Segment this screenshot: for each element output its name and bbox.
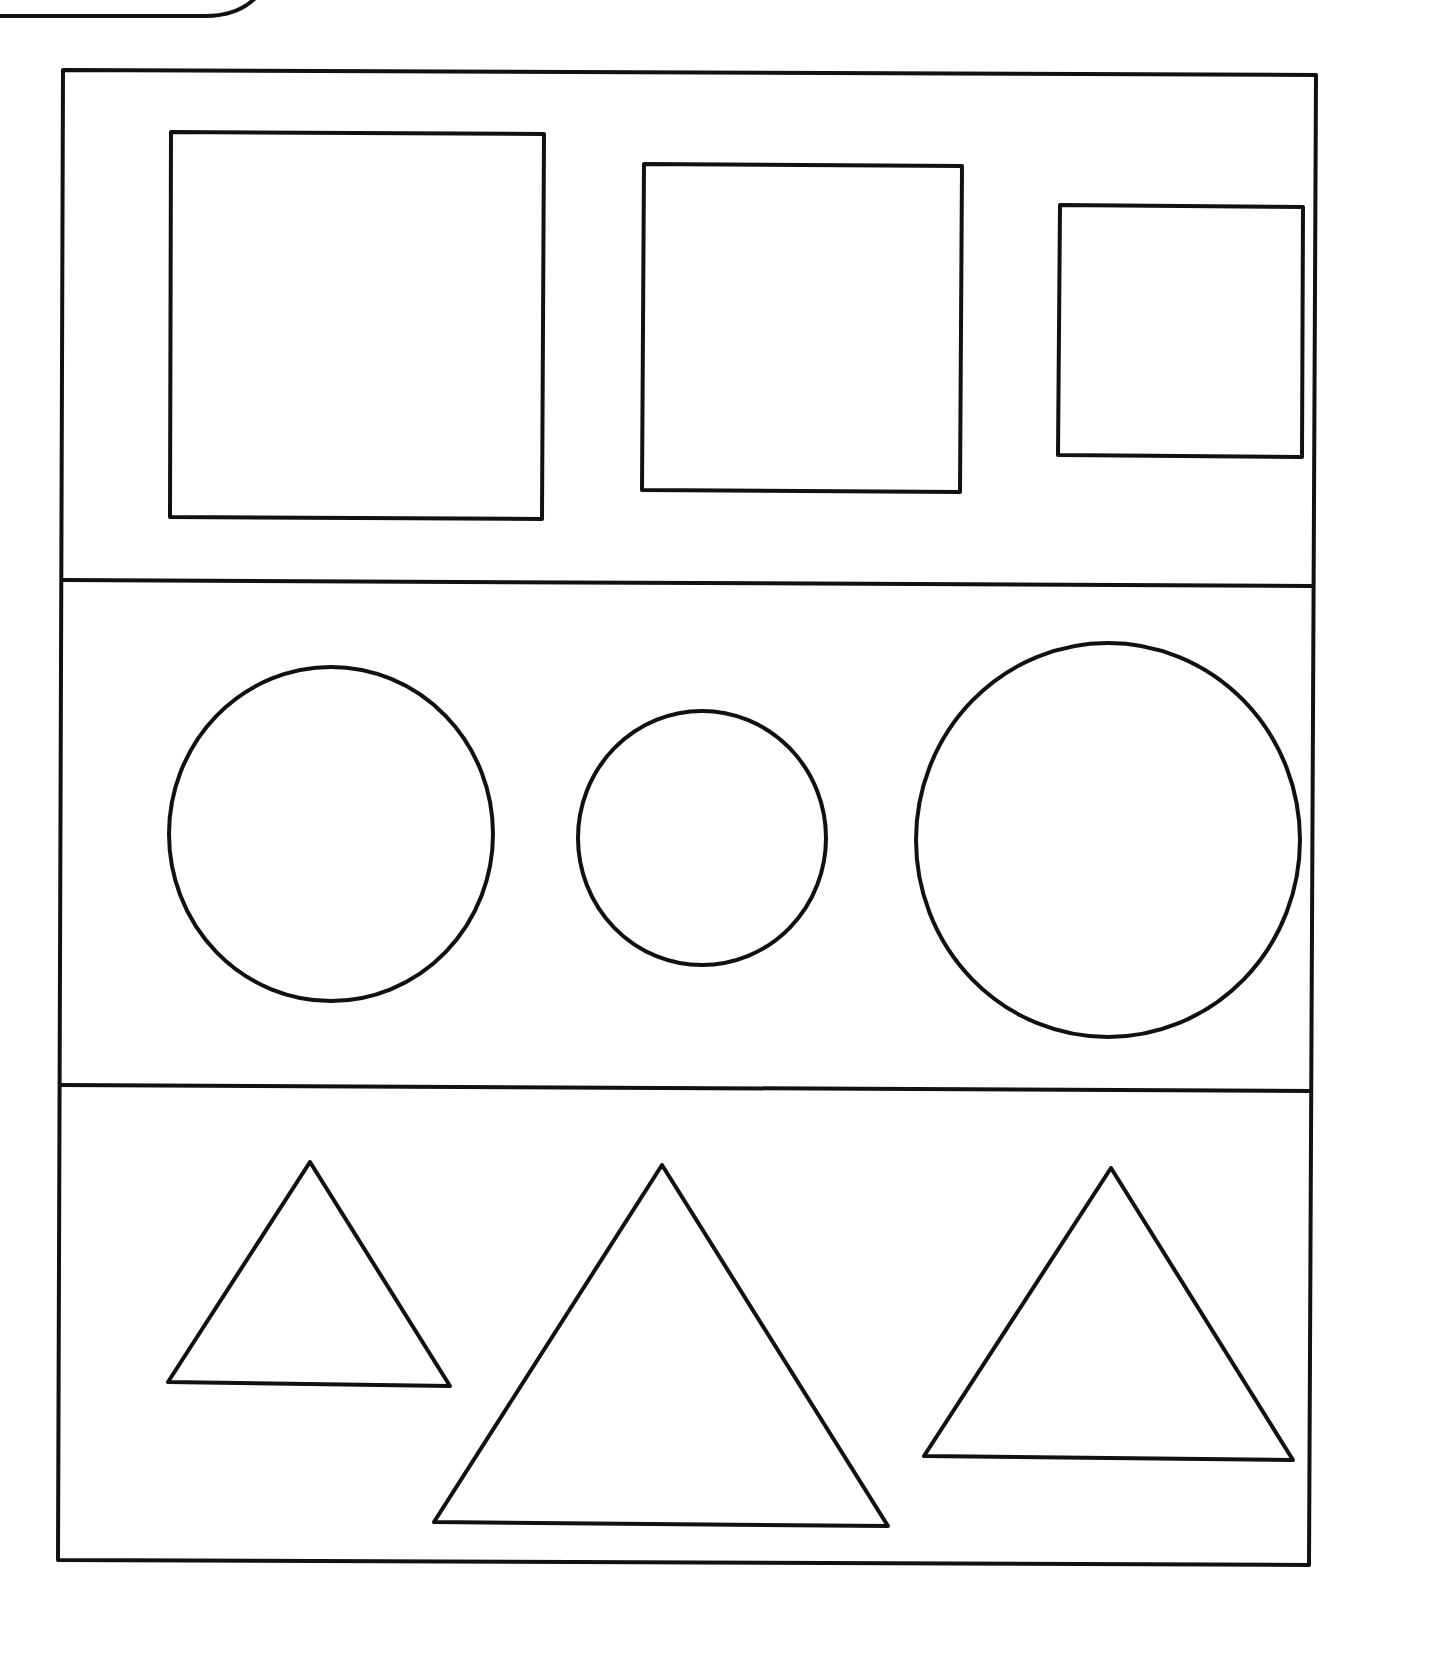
corner-tab-edge — [0, 0, 258, 16]
square-shape-2 — [642, 164, 962, 492]
row-squares — [170, 132, 1303, 519]
worksheet-frame — [58, 70, 1316, 1565]
circle-shape-3 — [916, 643, 1300, 1037]
triangle-shape-2 — [434, 1165, 888, 1526]
shapes-worksheet — [0, 0, 1437, 1658]
divider-line-1 — [63, 580, 1312, 586]
divider-line-2 — [61, 1085, 1310, 1091]
row-circles — [169, 643, 1300, 1037]
circle-shape-1 — [169, 667, 493, 1001]
row-triangles — [168, 1162, 1293, 1526]
triangle-shape-3 — [924, 1168, 1293, 1460]
square-shape-3 — [1058, 205, 1303, 457]
square-shape-1 — [170, 132, 544, 519]
circle-shape-2 — [578, 711, 826, 965]
row-dividers — [61, 580, 1312, 1091]
triangle-shape-1 — [168, 1162, 450, 1386]
